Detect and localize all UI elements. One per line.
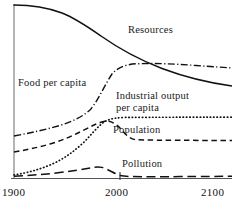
series-label-industrial-output: Industrial output per capita bbox=[116, 90, 189, 113]
x-axis-tick-label-1900: 1900 bbox=[2, 186, 25, 198]
series-label-pollution: Pollution bbox=[122, 158, 162, 170]
series-label-food-per-capita: Food per capita bbox=[18, 77, 86, 89]
series-label-industrial-output-line2: per capita bbox=[116, 102, 189, 114]
limits-to-growth-chart: Resources Food per capita Industrial out… bbox=[0, 0, 232, 210]
x-axis-tick-label-2100: 2100 bbox=[201, 186, 224, 198]
series-label-resources: Resources bbox=[128, 24, 173, 36]
series-line-resources bbox=[14, 5, 232, 86]
x-axis-tick-label-2000: 2000 bbox=[105, 186, 128, 198]
series-label-industrial-output-line1: Industrial output bbox=[116, 90, 189, 102]
series-label-population: Population bbox=[113, 124, 161, 136]
